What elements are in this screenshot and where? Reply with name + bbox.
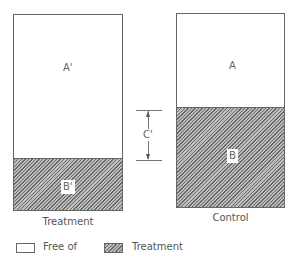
- control-caption: Control: [176, 212, 285, 223]
- legend-swatch-empty: [16, 243, 35, 253]
- treatment-lower-label: B': [61, 180, 75, 194]
- dimension-arrow-down-icon: [146, 154, 150, 160]
- control-upper-label: A: [229, 61, 236, 71]
- treatment-caption: Treatment: [13, 216, 123, 227]
- legend-swatch-hatched: [104, 243, 123, 253]
- legend-label-free: Free of: [43, 242, 77, 252]
- dimension-arrow-up-icon: [146, 111, 150, 117]
- dimension-bottom-tick: [136, 160, 162, 161]
- control-bar: [176, 13, 285, 208]
- treatment-upper-label: A': [63, 63, 73, 73]
- dimension-label: C': [143, 130, 153, 140]
- legend-label-treatment: Treatment: [132, 242, 183, 252]
- control-lower-label: B: [227, 149, 238, 163]
